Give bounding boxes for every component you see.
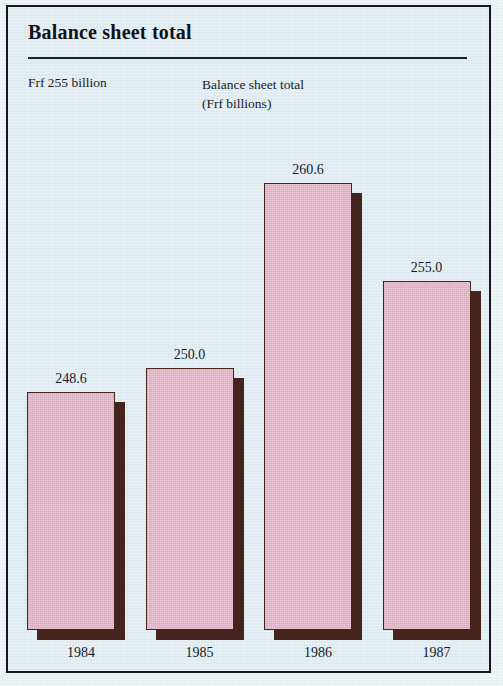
bar-1987[interactable] bbox=[383, 281, 471, 630]
bar-value-label: 248.6 bbox=[27, 371, 115, 387]
bar-value-label: 250.0 bbox=[146, 347, 234, 363]
bar-value-label: 260.6 bbox=[264, 162, 352, 178]
bar-1984[interactable] bbox=[27, 392, 115, 630]
x-axis-label-1985: 1985 bbox=[156, 645, 244, 661]
x-axis-label-1986: 1986 bbox=[274, 645, 362, 661]
figure-page: Balance sheet total Frf 255 billion Bala… bbox=[0, 0, 503, 686]
x-axis-label-1987: 1987 bbox=[393, 645, 481, 661]
x-axis-label-1984: 1984 bbox=[37, 645, 125, 661]
bar-1985[interactable] bbox=[146, 368, 234, 630]
figure-frame: Balance sheet total Frf 255 billion Bala… bbox=[6, 5, 491, 673]
bar-chart-plot: 248.61984250.01985260.61986255.01987 bbox=[8, 7, 489, 671]
bar-value-label: 255.0 bbox=[383, 260, 471, 276]
bar-1986[interactable] bbox=[264, 183, 352, 630]
